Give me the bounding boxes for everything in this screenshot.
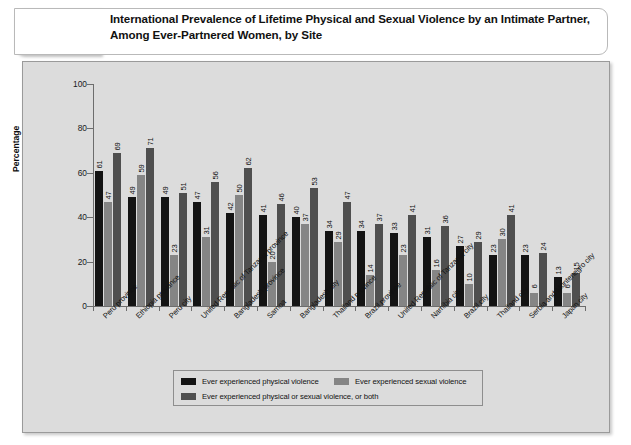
bar-value-label: 49 — [160, 181, 169, 201]
x-tick — [388, 306, 389, 311]
bar-value-label: 46 — [277, 187, 286, 207]
bar-value-label: 37 — [375, 207, 384, 227]
bar — [104, 202, 112, 306]
bar-value-label: 71 — [145, 132, 154, 152]
bar-value-label: 30 — [497, 223, 506, 243]
legend-label: Ever experienced physical or sexual viol… — [202, 392, 378, 401]
bar — [292, 217, 300, 306]
bar-value-label: 24 — [539, 236, 548, 256]
x-tick — [126, 306, 127, 311]
bar-value-label: 33 — [390, 216, 399, 236]
legend-item-sexual: Ever experienced sexual violence — [334, 377, 466, 386]
bar-value-label: 56 — [211, 165, 220, 185]
bar-value-label: 13 — [554, 261, 563, 281]
legend-item-physical: Ever experienced physical violence — [181, 377, 319, 386]
chart-legend: Ever experienced physical violence Ever … — [173, 370, 483, 406]
x-tick — [159, 306, 160, 311]
bar — [399, 255, 407, 306]
x-tick — [454, 306, 455, 311]
bar-value-label: 23 — [169, 238, 178, 258]
y-tick-label: 80 — [57, 123, 87, 133]
bar-value-label: 69 — [113, 136, 122, 156]
x-tick — [224, 306, 225, 311]
legend-swatch-icon — [181, 393, 196, 400]
bar — [146, 148, 154, 306]
bar — [507, 215, 515, 306]
legend-label: Ever experienced physical violence — [202, 377, 319, 386]
bar-value-label: 10 — [464, 267, 473, 287]
bar — [179, 193, 187, 306]
bar-value-label: 49 — [127, 181, 136, 201]
bar-value-label: 40 — [291, 201, 300, 221]
bar-value-label: 41 — [259, 198, 268, 218]
y-tick-label: 100 — [57, 79, 87, 89]
bar-value-label: 37 — [300, 207, 309, 227]
y-tick-label: 60 — [57, 168, 87, 178]
bar-value-label: 47 — [104, 185, 113, 205]
bar-value-label: 51 — [178, 176, 187, 196]
bar — [301, 224, 309, 306]
legend-label: Ever experienced sexual violence — [355, 377, 466, 386]
bar-value-label: 29 — [473, 225, 482, 245]
x-tick — [585, 306, 586, 311]
bar-value-label: 59 — [136, 159, 145, 179]
y-axis-title: Percentage — [11, 126, 21, 172]
bar — [202, 237, 210, 306]
bar-value-label: 34 — [324, 214, 333, 234]
x-tick — [519, 306, 520, 311]
bar — [334, 242, 342, 306]
bar-value-label: 47 — [342, 185, 351, 205]
x-tick — [552, 306, 553, 311]
x-tick — [355, 306, 356, 311]
y-tick-value: 80 — [61, 123, 87, 133]
bar — [193, 202, 201, 306]
bar-value-label: 61 — [95, 154, 104, 174]
y-tick-value: 20 — [61, 257, 87, 267]
y-tick-value: 100 — [61, 79, 87, 89]
bar-value-label: 23 — [521, 238, 530, 258]
x-tick — [290, 306, 291, 311]
chart-panel: Percentage 020406080100 6147694959714923… — [22, 61, 610, 433]
bar — [113, 153, 121, 306]
bar — [277, 204, 285, 306]
plot-area: 6147694959714923514731564250624120464037… — [93, 84, 585, 306]
bar-value-label: 53 — [309, 172, 318, 192]
x-tick — [93, 306, 94, 311]
y-tick-label: 0 — [57, 301, 87, 311]
bar — [244, 168, 252, 306]
exhibit-figure: Exhibit 2.1 International Prevalence of … — [0, 0, 631, 445]
bar — [408, 215, 416, 306]
legend-swatch-icon — [334, 378, 349, 385]
bar-value-label: 41 — [408, 198, 417, 218]
bar — [95, 171, 103, 306]
y-tick-label: 40 — [57, 212, 87, 222]
bar-value-label: 47 — [193, 185, 202, 205]
y-tick-label: 20 — [57, 257, 87, 267]
bar-value-label: 6 — [530, 276, 539, 296]
bar — [343, 202, 351, 306]
legend-item-either: Ever experienced physical or sexual viol… — [181, 392, 378, 401]
bar — [498, 239, 506, 306]
bar-value-label: 23 — [488, 238, 497, 258]
bar-value-label: 34 — [357, 214, 366, 234]
x-tick — [421, 306, 422, 311]
x-tick — [323, 306, 324, 311]
bar-value-label: 41 — [506, 198, 515, 218]
x-tick — [257, 306, 258, 311]
bar-value-label: 62 — [244, 152, 253, 172]
bar — [137, 175, 145, 306]
y-tick-value: 0 — [61, 301, 87, 311]
exhibit-title: International Prevalence of Lifetime Phy… — [110, 11, 602, 42]
legend-swatch-icon — [181, 378, 196, 385]
y-tick-value: 40 — [61, 212, 87, 222]
bar — [310, 188, 318, 306]
bar-value-label: 29 — [333, 225, 342, 245]
bar-value-label: 31 — [202, 221, 211, 241]
bar-value-label: 23 — [399, 238, 408, 258]
y-tick-value: 60 — [61, 168, 87, 178]
bar-value-label: 50 — [235, 179, 244, 199]
x-tick — [191, 306, 192, 311]
bar-value-label: 36 — [441, 210, 450, 230]
bar-value-label: 31 — [423, 221, 432, 241]
x-tick — [487, 306, 488, 311]
